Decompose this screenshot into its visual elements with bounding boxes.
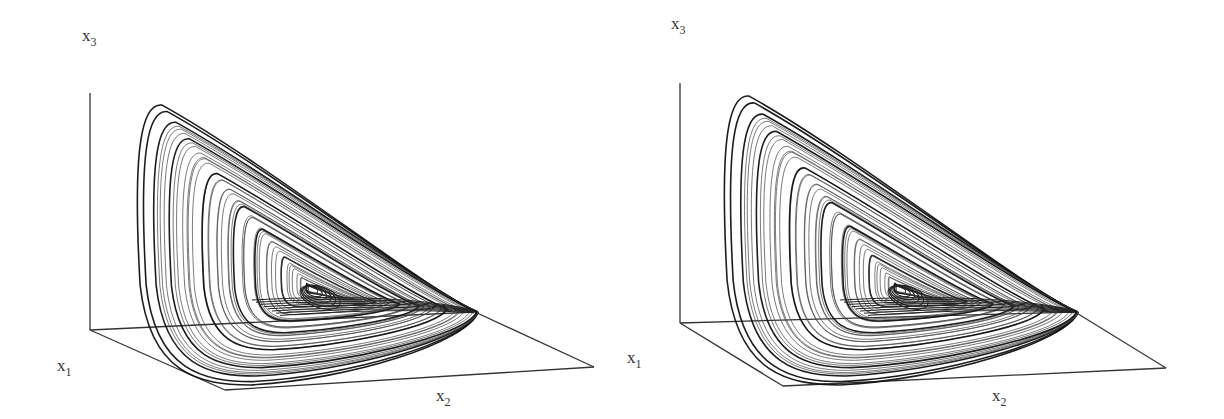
axis-label-x1: x1 [627, 348, 642, 372]
axis-label-x3: x3 [671, 14, 686, 38]
floor-front-edge [783, 368, 1166, 386]
attractor-trajectory [724, 96, 1078, 385]
attractor-panel-right: x3 x1 x2 [0, 0, 1224, 419]
floor-right-edge [1075, 312, 1166, 368]
axis-label-x2: x2 [992, 386, 1007, 410]
attractor-plot-right [0, 0, 1224, 419]
